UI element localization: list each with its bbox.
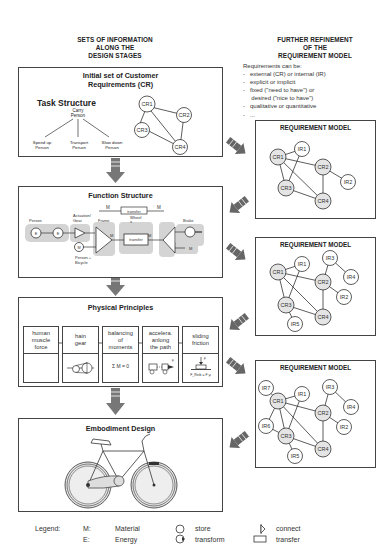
arrow-to-model-1 (224, 134, 250, 159)
legend-value-energy: Energy (115, 535, 137, 545)
legend-key-m: M: (83, 524, 91, 534)
diagonal-arrows (0, 0, 381, 557)
arrow-from-model-2 (225, 310, 251, 335)
legend-label: Legend: (35, 524, 60, 534)
legend-transfer: transfer (276, 535, 300, 545)
arrow-to-model-2 (224, 240, 250, 265)
connect-transfer-icon (253, 524, 267, 546)
legend-key-e: E: (83, 535, 90, 545)
arrow-to-model-3 (224, 354, 250, 379)
legend-transform: transform (195, 535, 225, 545)
arrow-from-model-3 (225, 428, 251, 453)
legend-store: store (195, 524, 211, 534)
store-transform-icon (174, 524, 186, 546)
legend-value-material: Material (115, 524, 140, 534)
legend-connect: connect (276, 524, 301, 534)
arrow-from-model-1 (225, 193, 251, 218)
legend: Legend: M: E: Material Energy store tran… (35, 524, 375, 548)
